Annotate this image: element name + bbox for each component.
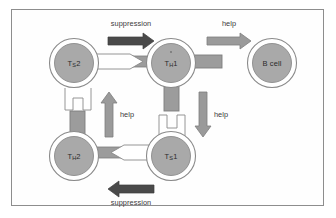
diagram-frame: TS2 TH1 B cell TH2 TS1 suppression help … — [11, 9, 324, 206]
cell-th1[interactable] — [147, 39, 196, 88]
arrow-bottom-suppression — [108, 181, 154, 197]
figure-root: TS2 TH1 B cell TH2 TS1 suppression help … — [0, 0, 336, 218]
cell-th2[interactable] — [50, 132, 99, 181]
cell-bcell[interactable] — [248, 39, 297, 88]
cell-ts2[interactable] — [50, 39, 99, 88]
connector-ts2-socket-down — [65, 88, 91, 110]
diagram-canvas — [12, 10, 323, 205]
arrow-top-help — [207, 33, 251, 49]
arrow-top-suppression — [108, 33, 154, 49]
cell-ts1[interactable] — [147, 132, 196, 181]
arrow-right-help — [195, 92, 211, 137]
arrow-left-help — [101, 92, 117, 137]
